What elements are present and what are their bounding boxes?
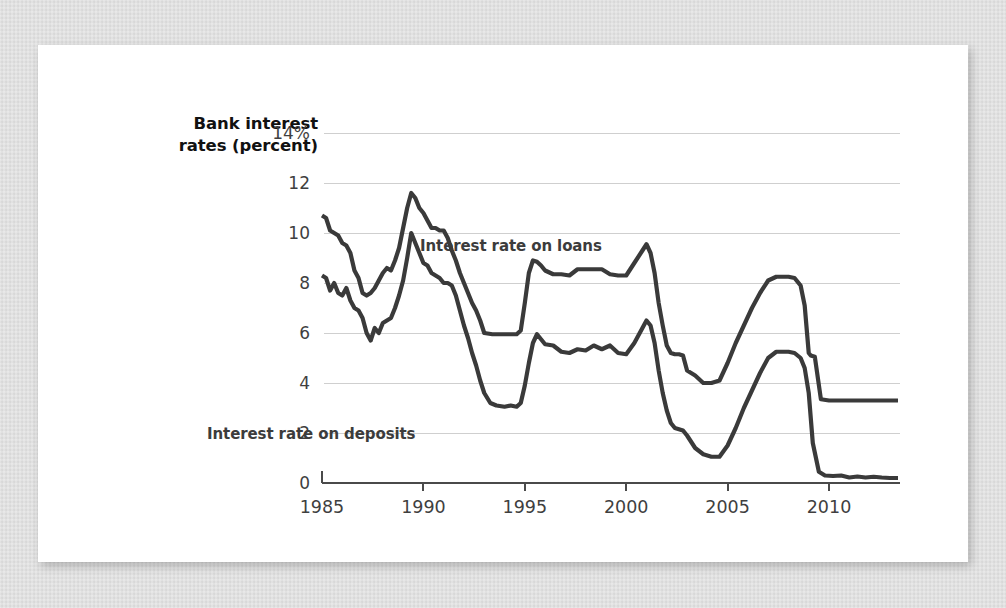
y-tick-label: 12 xyxy=(288,173,310,193)
series-line-loans xyxy=(322,193,898,401)
x-axis-ticks-group: 198519901995200020052010 xyxy=(300,483,852,517)
x-tick-label: 2005 xyxy=(705,497,750,517)
y-tick-label: 14% xyxy=(272,123,310,143)
x-tick-label: 1995 xyxy=(503,497,548,517)
y-tick-label: 0 xyxy=(299,473,310,493)
x-tick-label: 1990 xyxy=(401,497,446,517)
y-tick-label: 8 xyxy=(299,273,310,293)
chart-area: Bank interest rates (percent) 0246810121… xyxy=(38,45,968,562)
axis-lines-group xyxy=(322,471,900,483)
chart-card: Bank interest rates (percent) 0246810121… xyxy=(38,45,968,562)
series-label-deposits: Interest rate on deposits xyxy=(207,425,415,443)
x-tick-label: 1985 xyxy=(300,497,345,517)
y-tick-label: 6 xyxy=(299,323,310,343)
gridlines-group xyxy=(324,133,900,433)
x-tick-label: 2000 xyxy=(604,497,649,517)
y-tick-label: 10 xyxy=(288,223,310,243)
y-tick-label: 4 xyxy=(299,373,310,393)
plot-svg: 02468101214% 198519901995200020052010 xyxy=(38,45,968,562)
series-label-loans: Interest rate on loans xyxy=(420,237,602,255)
x-tick-label: 2010 xyxy=(807,497,852,517)
